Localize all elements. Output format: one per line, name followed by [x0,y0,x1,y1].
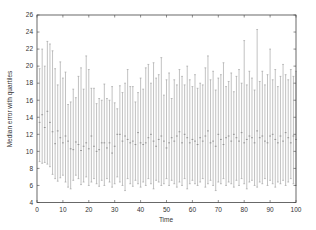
x-axis: 0102030405060708090100 [35,15,302,213]
y-axis: 468101214161820222426 [26,11,296,206]
errorbar [267,75,269,186]
y-tick-label: 20 [26,62,34,69]
errorbar [220,75,222,184]
errorbar [189,80,191,184]
errorbar [93,88,95,178]
errorbar [248,71,250,182]
errorbar [171,99,173,181]
errorbar [44,66,46,162]
errorbar [54,69,56,179]
errorbar [122,93,124,186]
errorbar [261,71,263,184]
x-tick-label: 50 [163,206,171,213]
y-tick-label: 6 [29,182,33,189]
x-tick-label: 40 [137,206,145,213]
errorbar [272,80,274,184]
x-tick-label: 70 [215,206,223,213]
errorbar [135,102,137,180]
y-tick-label: 4 [29,199,33,206]
errorbar [111,87,113,188]
y-tick-label: 16 [26,97,34,104]
errorbar [119,86,121,182]
errorbar [145,68,147,186]
errorbar [256,29,258,187]
errorbar [52,51,54,175]
x-tick-label: 80 [241,206,249,213]
errorbar [293,76,295,183]
errorbar [277,87,279,182]
errorbar [90,88,92,182]
errorbar [212,71,214,185]
errorbar [179,70,181,183]
errorbar [132,87,134,187]
x-tick-label: 60 [189,206,197,213]
errorbar [274,70,276,188]
errorbar [150,83,152,184]
errorbar [129,87,131,184]
errorbar [101,100,103,180]
errorbar [192,87,194,181]
errorbar [254,90,256,185]
errorbar [103,84,105,185]
errorbar [142,89,144,182]
errorbar [153,63,155,189]
errorbar [228,81,230,182]
errorbar [202,85,204,179]
errorbar [290,70,292,179]
errorbar [57,85,59,181]
errorbar [241,83,243,178]
x-tick-label: 100 [291,206,302,213]
errorbar [210,80,212,181]
errorbar [124,83,126,190]
x-tick-label: 10 [59,206,67,213]
errorbar [184,85,186,179]
errorbar-chart: 0102030405060708090100 46810121416182022… [0,0,316,230]
errorbar [116,109,118,177]
errorbar [217,78,219,182]
y-tick-label: 18 [26,79,34,86]
errorbar [259,81,261,182]
errorbar [246,85,248,189]
errorbar [147,64,149,178]
errorbar [264,85,266,179]
x-tick-label: 30 [111,206,119,213]
errorbar [137,93,139,184]
errorbar [72,89,74,180]
errorbar [238,70,240,186]
x-tick-label: 90 [266,206,274,213]
y-tick-label: 8 [29,165,33,172]
errorbar [282,64,284,180]
errorbar [230,73,232,184]
y-tick-label: 22 [26,45,34,52]
errorbar [207,56,209,184]
errorbar [285,75,287,186]
errorbar [158,75,160,182]
errorbar [70,102,72,189]
errorbar [106,99,108,179]
errorbar [39,69,41,162]
errorbar [67,104,69,187]
errorbar [62,78,64,175]
y-tick-label: 14 [26,114,34,121]
errorbar [181,76,183,185]
errorbar [49,44,51,167]
x-axis-label: Time [159,216,174,223]
errorbar [109,100,111,182]
x-tick-label: 20 [85,206,93,213]
errorbar [251,78,253,180]
errorbar [155,78,157,180]
errorbar [236,76,238,180]
errorbar [197,88,199,185]
y-tick-label: 10 [26,148,34,155]
errorbar [46,41,48,164]
y-axis-label: Median error with quartiles [6,70,14,147]
errorbar [287,80,289,182]
errorbar [78,76,80,178]
errorbar [168,73,170,186]
errorbar [160,58,162,186]
errorbar [80,68,82,185]
errorbar [163,95,165,184]
errorbar [176,85,178,187]
errorbar [88,70,90,186]
errorbar [233,92,235,187]
